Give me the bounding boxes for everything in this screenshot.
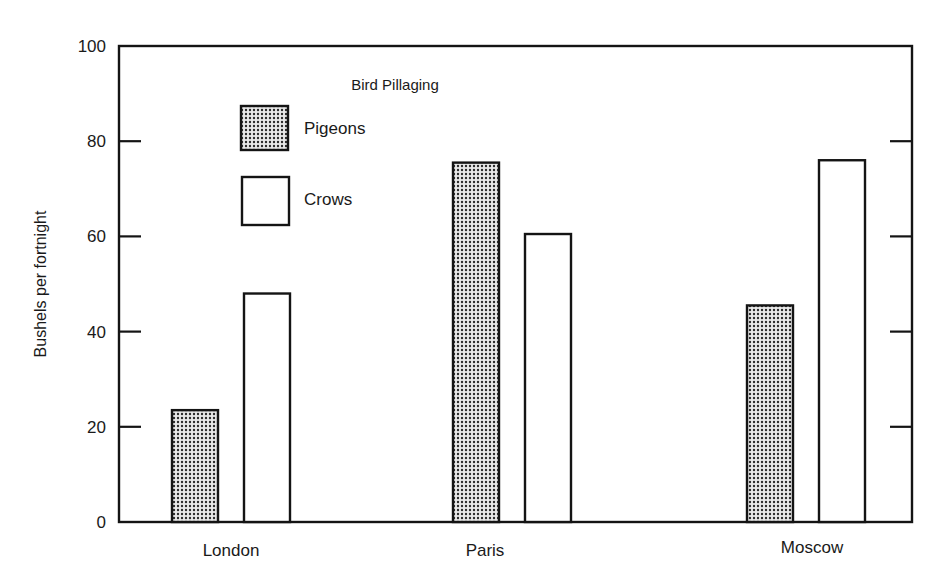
legend-swatch-pigeons (241, 106, 288, 150)
x-axis: LondonParisMoscow (203, 538, 844, 560)
y-axis-title: Bushels per fortnight (32, 210, 49, 357)
y-tick-label: 20 (87, 418, 106, 437)
y-tick-label: 80 (87, 132, 106, 151)
bar-crows-paris (525, 234, 571, 522)
bar-pigeons-paris (453, 163, 499, 522)
bar-chart: 020406080100 LondonParisMoscow Bird Pill… (0, 0, 946, 582)
bar-crows-moscow (819, 160, 865, 522)
legend-swatch-crows (242, 177, 289, 225)
legend: Pigeons Crows (241, 106, 365, 225)
bar-pigeons-london (172, 410, 218, 522)
legend-label-crows: Crows (304, 190, 352, 209)
x-tick-label: London (203, 541, 260, 560)
y-tick-label: 40 (87, 323, 106, 342)
y-tick-label: 60 (87, 227, 106, 246)
x-tick-label: Paris (466, 541, 505, 560)
chart-title: Bird Pillaging (351, 76, 439, 93)
bar-pigeons-moscow (747, 305, 793, 522)
legend-label-pigeons: Pigeons (304, 119, 365, 138)
bar-crows-london (244, 294, 290, 522)
y-tick-label: 100 (78, 37, 106, 56)
y-tick-label: 0 (97, 513, 106, 532)
x-tick-label: Moscow (781, 538, 844, 557)
